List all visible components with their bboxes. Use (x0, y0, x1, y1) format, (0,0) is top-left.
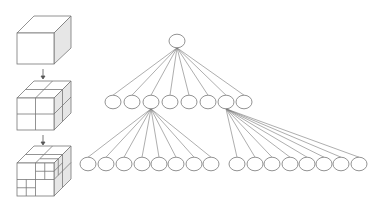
tree-node-level-2 (186, 157, 202, 171)
tree-edge (177, 48, 226, 95)
cube-level-2 (17, 146, 71, 196)
tree-node-level-2 (98, 157, 114, 171)
tree-node-level-2 (282, 157, 298, 171)
tree-node-level-2 (116, 157, 132, 171)
tree-node-level-1 (105, 95, 121, 109)
tree-edge (226, 109, 307, 157)
tree-node-level-2 (316, 157, 332, 171)
tree-edge (88, 109, 151, 157)
arrow-down-icon (41, 135, 45, 145)
tree-node-level-2 (134, 157, 150, 171)
tree-node-level-1 (236, 95, 252, 109)
tree-node-level-2 (168, 157, 184, 171)
tree-node-level-2 (333, 157, 349, 171)
tree-edge (124, 109, 151, 157)
tree-node-level-1 (218, 95, 234, 109)
tree-edge (113, 48, 177, 95)
tree-edge (226, 109, 341, 157)
tree-node-level-2 (351, 157, 367, 171)
tree-node-level-1 (143, 95, 159, 109)
tree-edge (106, 109, 151, 157)
tree-node-level-2 (80, 157, 96, 171)
tree-node-level-2 (299, 157, 315, 171)
cube-level-0 (17, 16, 71, 64)
tree-node-level-2 (151, 157, 167, 171)
tree-node-level-1 (181, 95, 197, 109)
tree-edge (226, 109, 272, 157)
tree-node-level-1 (162, 95, 178, 109)
tree-node-level-1 (200, 95, 216, 109)
tree-root-node (169, 34, 185, 48)
tree-edge (177, 48, 208, 95)
tree-edge (151, 109, 211, 157)
cube-level-1 (17, 81, 71, 130)
tree-edge (170, 48, 177, 95)
tree-node-level-2 (203, 157, 219, 171)
tree-node-level-2 (229, 157, 245, 171)
tree-edge (226, 109, 359, 157)
tree-node-level-2 (247, 157, 263, 171)
tree-edge (132, 48, 177, 95)
tree-node-level-1 (124, 95, 140, 109)
arrow-down-icon (41, 69, 45, 79)
tree-node-level-2 (264, 157, 280, 171)
tree-edge (142, 109, 151, 157)
octree-diagram (0, 0, 384, 205)
